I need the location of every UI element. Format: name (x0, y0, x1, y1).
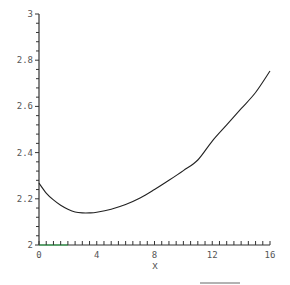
y-tick-label: 2.2 (17, 194, 33, 204)
x-tick-label: 16 (265, 250, 276, 260)
y-tick-label: 2.6 (17, 101, 33, 111)
y-tick-label: 2 (28, 240, 33, 250)
x-tick-label: 0 (36, 250, 41, 260)
line-chart: 22.22.42.62.83 0481216 x (0, 0, 290, 285)
x-tick-label: 8 (152, 250, 157, 260)
data-curve (39, 71, 270, 213)
x-tick-label: 12 (207, 250, 218, 260)
y-tick-label: 2.4 (17, 148, 33, 158)
y-tick-label: 3 (28, 9, 33, 19)
y-axis: 22.22.42.62.83 (17, 9, 39, 250)
y-tick-label: 2.8 (17, 55, 33, 65)
x-axis-label: x (152, 260, 158, 271)
x-tick-label: 4 (94, 250, 99, 260)
x-axis: 0481216 (36, 241, 275, 260)
